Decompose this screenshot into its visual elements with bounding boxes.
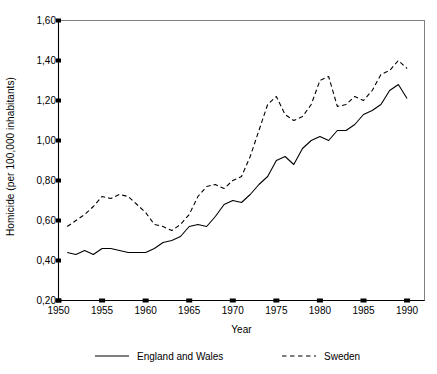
y-axis-tick <box>56 219 61 223</box>
x-axis-tick <box>230 299 236 303</box>
y-axis-tick <box>56 139 61 143</box>
plot-area <box>0 0 437 374</box>
x-axis-tick <box>186 299 192 303</box>
legend-label: England and Wales <box>137 351 223 362</box>
plot-frame-border <box>59 21 425 301</box>
legend-line-swatch <box>282 351 316 361</box>
x-axis-tick <box>317 299 323 303</box>
x-axis-tick <box>99 299 105 303</box>
homicide-rate-line-chart: Homicide (per 100,000 inhabitants) 0,200… <box>0 0 437 374</box>
x-axis-tick <box>361 299 367 303</box>
x-axis-tick <box>404 299 410 303</box>
y-axis-tick <box>56 179 61 183</box>
legend-item: England and Wales <box>95 348 223 364</box>
legend-label: Sweden <box>324 351 360 362</box>
legend-line-swatch <box>95 351 129 361</box>
y-axis-tick <box>56 19 61 23</box>
x-axis-tick <box>143 299 149 303</box>
x-axis-tick <box>56 299 62 303</box>
y-axis-tick <box>56 59 61 63</box>
x-axis-tick <box>273 299 279 303</box>
chart-legend: England and WalesSweden <box>0 348 437 370</box>
y-axis-tick <box>56 259 61 263</box>
y-axis-tick <box>56 99 61 103</box>
series-line-england-and-wales <box>67 85 407 255</box>
legend-item: Sweden <box>282 348 360 364</box>
series-line-sweden <box>67 61 407 231</box>
